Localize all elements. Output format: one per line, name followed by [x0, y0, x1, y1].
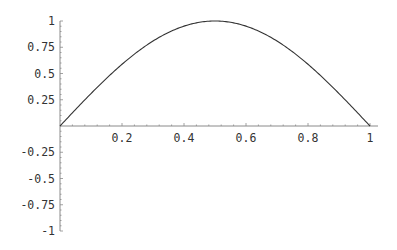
y-tick-label: 1	[48, 14, 55, 28]
x-tick-label: 0.2	[112, 131, 133, 145]
y-tick-labels: 10.750.50.25-0.25-0.5-0.75-1	[20, 14, 55, 238]
line-chart: 0.20.40.60.81 10.750.50.25-0.25-0.5-0.75…	[0, 0, 397, 250]
x-tick-label: 0.4	[174, 131, 195, 145]
x-tick-label: 0.8	[298, 131, 319, 145]
y-tick-label: -1	[41, 224, 55, 238]
y-tick-label: -0.75	[20, 198, 55, 212]
y-tick-label: -0.25	[20, 145, 55, 159]
y-tick-label: 0.5	[34, 67, 55, 81]
x-axis	[60, 123, 378, 126]
y-tick-label: 0.25	[27, 93, 55, 107]
y-tick-label: -0.5	[27, 172, 55, 186]
x-tick-label: 1	[367, 131, 374, 145]
x-tick-labels: 0.20.40.60.81	[112, 131, 374, 145]
data-line	[60, 21, 370, 126]
x-tick-label: 0.6	[236, 131, 257, 145]
y-tick-label: 0.75	[27, 40, 55, 54]
